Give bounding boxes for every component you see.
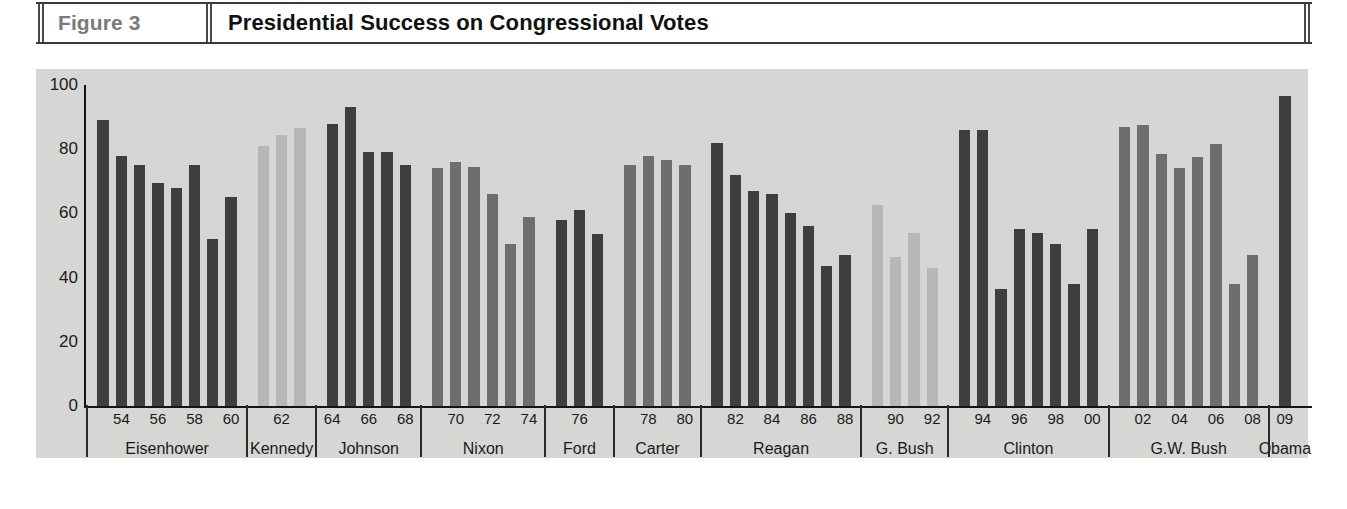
chart-panel: 020406080100 545658606264666870727476788… [36,69,1308,458]
group-separator-6 [700,405,702,457]
group-separator-8 [947,405,949,457]
group-separator-10 [1268,405,1270,457]
group-separator-2 [315,405,317,457]
figure-header: Figure 3 Presidential Success on Congres… [36,2,1312,44]
figure-title: Presidential Success on Congressional Vo… [228,10,709,36]
figure-container: Figure 3 Presidential Success on Congres… [0,0,1347,509]
header-rule-bottom [36,42,1312,44]
group-separator-4 [544,405,546,457]
header-rule-top [36,2,1312,4]
group-separator-7 [860,405,862,457]
plot-area: 020406080100 545658606264666870727476788… [36,69,1308,458]
header-divider-left [38,4,44,42]
group-separator-5 [613,405,615,457]
group-separator-1 [246,405,248,457]
header-divider-right [1304,4,1310,42]
group-separator-0 [86,405,88,457]
figure-number-label: Figure 3 [58,11,140,35]
group-separators [36,69,1308,458]
header-divider-middle [206,4,212,42]
group-separator-9 [1108,405,1110,457]
group-separator-3 [420,405,422,457]
